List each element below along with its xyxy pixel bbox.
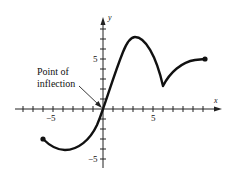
inflection-annotation: Point of inflection	[37, 66, 75, 90]
x-axis-arrow-icon	[214, 107, 222, 112]
function-curve	[43, 37, 205, 150]
y-tick-label-neg5: −5	[88, 155, 98, 164]
y-axis-label: y	[108, 14, 112, 22]
annotation-line-2: inflection	[37, 78, 75, 90]
y-axis-arrow-icon	[101, 17, 106, 25]
left-endpoint-dot	[40, 136, 45, 141]
y-tick-label-5: 5	[93, 55, 98, 64]
graph-canvas	[0, 0, 233, 178]
annotation-arrow-line	[79, 86, 99, 105]
annotation-line-1: Point of	[37, 66, 75, 78]
x-tick-label-neg5: −5	[46, 114, 56, 123]
right-endpoint-dot	[202, 56, 207, 61]
x-tick-label-5: 5	[151, 114, 156, 123]
x-axis-label: x	[214, 97, 218, 105]
